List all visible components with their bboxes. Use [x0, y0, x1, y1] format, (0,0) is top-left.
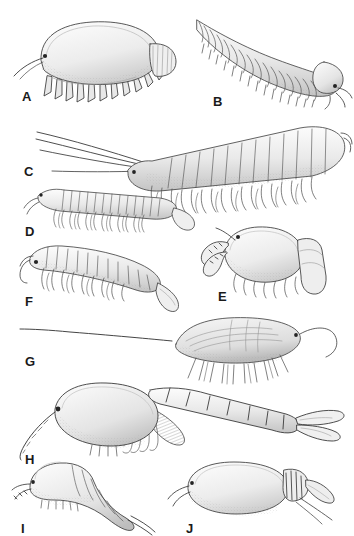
figure-c-eye	[132, 170, 136, 174]
figure-g-eye	[294, 333, 298, 337]
figure-label-f: F	[25, 295, 33, 308]
figure-label-i: I	[21, 522, 25, 535]
figure-label-d: D	[25, 225, 35, 238]
figure-h-eye	[56, 407, 61, 412]
figure-a-eye	[43, 54, 47, 58]
figure-j-eye	[190, 481, 194, 485]
figure-d-eye	[39, 193, 42, 196]
figure-label-j: J	[186, 522, 193, 535]
figure-label-g: G	[25, 355, 35, 368]
figure-label-a: A	[22, 90, 32, 103]
figure-label-e: E	[218, 290, 227, 303]
figure-label-h: H	[25, 453, 35, 466]
figure-i-eye	[31, 480, 35, 484]
figure-b-eye	[333, 84, 337, 88]
figure-label-b: B	[213, 95, 223, 108]
figure-label-c: C	[24, 165, 34, 178]
figure-e-eye	[236, 235, 240, 239]
illustration-plate	[0, 0, 354, 536]
figure-f-eye	[34, 260, 38, 264]
